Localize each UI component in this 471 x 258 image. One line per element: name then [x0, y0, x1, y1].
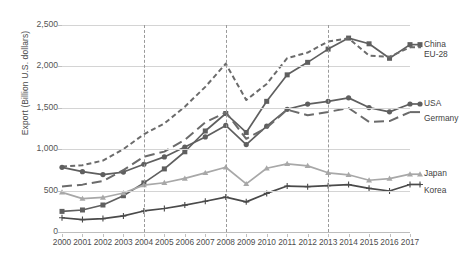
legend-label-korea: Korea: [424, 185, 446, 195]
data-point-marker: [80, 169, 85, 174]
data-point-marker: [407, 181, 413, 187]
legend-marker: [418, 42, 423, 47]
data-point-marker: [346, 182, 352, 188]
legend-label-germany: Germany: [424, 113, 458, 123]
y-tick-label: 1,500: [12, 103, 58, 112]
y-tick-label: 2,500: [12, 20, 58, 29]
x-tick-label: 2008: [217, 237, 235, 247]
gridline-1500: [62, 108, 410, 109]
x-tick-label: 2002: [94, 237, 112, 247]
data-point-marker: [305, 101, 310, 106]
y-tick-label: 1,000: [12, 144, 58, 153]
data-point-marker: [244, 130, 249, 135]
data-point-marker: [305, 184, 311, 190]
data-point-marker: [387, 109, 392, 114]
legend-marker: [417, 181, 423, 187]
x-tick-label: 2005: [155, 237, 173, 247]
plot-area: [62, 25, 410, 232]
data-point-marker: [182, 202, 188, 208]
gridline-0: [62, 232, 410, 233]
data-point-marker: [162, 166, 167, 171]
legend-label-china: China: [424, 39, 446, 49]
data-point-marker: [408, 42, 413, 47]
data-point-marker: [407, 101, 412, 106]
x-tick-label: 2009: [237, 237, 255, 247]
y-tick-mark: [58, 149, 62, 150]
legend-marker: [417, 171, 423, 176]
gridline-500: [62, 191, 410, 192]
x-tick-label: 2011: [278, 237, 296, 247]
reference-line-2004: [144, 25, 145, 232]
data-point-marker: [203, 128, 208, 133]
data-point-marker: [285, 72, 290, 77]
y-tick-mark: [58, 108, 62, 109]
data-point-marker: [100, 172, 105, 177]
x-tick-label: 2006: [176, 237, 194, 247]
x-tick-label: 2014: [339, 237, 357, 247]
y-tick-mark: [58, 25, 62, 26]
x-tick-label: 2010: [257, 237, 275, 247]
data-point-marker: [80, 207, 85, 212]
y-tick-label: 500: [12, 186, 58, 195]
data-point-marker: [305, 60, 310, 65]
data-point-marker: [59, 215, 65, 221]
data-point-marker: [162, 154, 167, 159]
data-point-marker: [100, 203, 105, 208]
series-layer: [62, 25, 410, 232]
x-axis-tick-labels: 2000200120022003200420052006200720082009…: [62, 234, 410, 248]
y-tick-mark: [58, 191, 62, 192]
data-point-marker: [203, 134, 208, 139]
y-tick-label: 0: [12, 227, 58, 236]
legend-marker: [417, 101, 422, 106]
series-line: [62, 98, 410, 175]
data-point-marker: [60, 209, 65, 214]
x-tick-label: 2015: [360, 237, 378, 247]
data-point-marker: [244, 142, 249, 147]
x-tick-label: 2012: [298, 237, 316, 247]
reference-line-2013: [328, 25, 329, 232]
gridline-2500: [62, 25, 410, 26]
x-tick-label: 2000: [53, 237, 71, 247]
data-point-marker: [367, 41, 372, 46]
data-point-marker: [100, 216, 106, 222]
y-tick-mark: [58, 232, 62, 233]
data-point-marker: [120, 213, 126, 219]
x-tick-label: 2007: [196, 237, 214, 247]
gridline-1000: [62, 149, 410, 150]
x-tick-label: 2016: [380, 237, 398, 247]
legend-label-eu-28: EU-28: [424, 49, 448, 59]
y-tick-label: 2,000: [12, 61, 58, 70]
reference-line-2008: [226, 25, 227, 232]
series-korea: [59, 181, 413, 222]
x-tick-label: 2001: [73, 237, 91, 247]
data-point-marker: [202, 198, 208, 204]
gridline-2000: [62, 66, 410, 67]
chart-figure: Export (Billion U.S. dollars) 05001,0001…: [0, 0, 471, 258]
data-point-marker: [79, 217, 85, 223]
y-axis-tick-labels: 05001,0001,5002,0002,500: [10, 0, 58, 258]
data-point-marker: [346, 95, 351, 100]
legend-label-usa: USA: [424, 98, 441, 108]
data-point-marker: [284, 183, 290, 189]
data-point-marker: [243, 199, 249, 205]
x-tick-label: 2004: [135, 237, 153, 247]
legend-label-japan: Japan: [424, 168, 447, 178]
x-tick-label: 2003: [114, 237, 132, 247]
y-tick-mark: [58, 66, 62, 67]
x-tick-label: 2013: [319, 237, 337, 247]
x-tick-label: 2017: [401, 237, 419, 247]
data-point-marker: [264, 99, 269, 104]
data-point-marker: [59, 165, 64, 170]
data-point-marker: [161, 205, 167, 211]
series-line: [62, 164, 410, 199]
series-japan: [59, 161, 413, 201]
